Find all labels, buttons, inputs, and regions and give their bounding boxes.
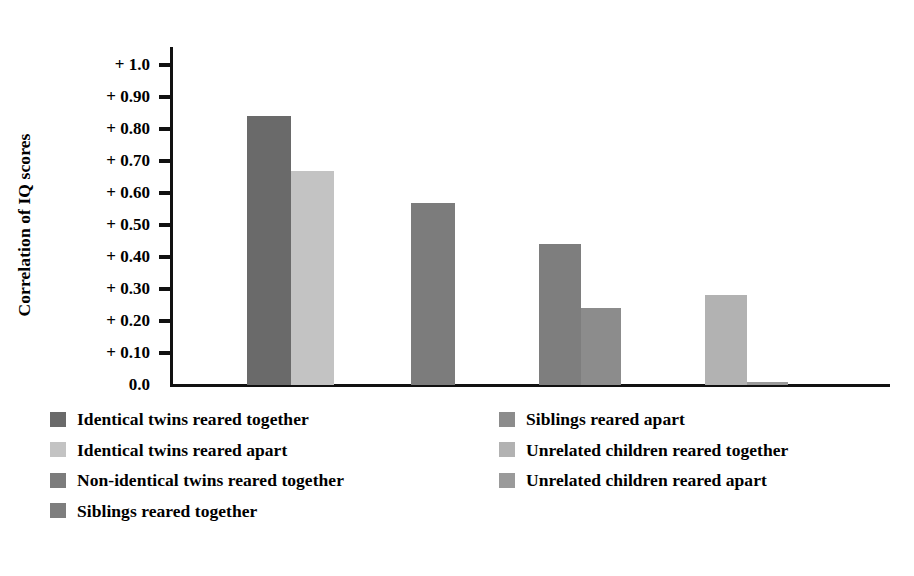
legend-item: Unrelated children reared apart (499, 465, 909, 496)
legend-column-left: Identical twins reared togetherIdentical… (50, 404, 480, 526)
legend-swatch (50, 503, 66, 518)
legend-item: Identical twins reared apart (50, 435, 480, 466)
bar (747, 382, 788, 385)
legend-item: Siblings reared apart (499, 404, 909, 435)
legend-swatch (50, 412, 66, 427)
bar (705, 295, 747, 385)
legend-item: Identical twins reared together (50, 404, 480, 435)
legend-item: Non-identical twins reared together (50, 465, 480, 496)
bar (581, 308, 621, 385)
bar (247, 116, 291, 385)
legend-item-label: Non-identical twins reared together (77, 470, 344, 490)
bar (539, 244, 581, 385)
legend-item: Siblings reared together (50, 496, 480, 527)
legend-item-label: Unrelated children reared apart (526, 470, 767, 490)
legend-item-label: Siblings reared apart (526, 409, 685, 429)
legend-column-right: Siblings reared apartUnrelated children … (499, 404, 909, 496)
legend: Identical twins reared togetherIdentical… (0, 404, 914, 576)
legend-swatch (499, 442, 515, 457)
legend-item: Unrelated children reared together (499, 435, 909, 466)
legend-item-label: Identical twins reared apart (77, 440, 287, 460)
legend-item-label: Identical twins reared together (77, 409, 309, 429)
legend-swatch (499, 412, 515, 427)
iq-correlation-bar-chart: Correlation of IQ scores + 1.0+ 0.90+ 0.… (0, 0, 914, 576)
legend-item-label: Siblings reared together (77, 501, 257, 521)
legend-item-label: Unrelated children reared together (526, 440, 788, 460)
bar-group (0, 0, 914, 385)
legend-swatch (50, 473, 66, 488)
bar (411, 203, 455, 385)
bar (291, 171, 334, 385)
legend-swatch (50, 442, 66, 457)
plot-area: Correlation of IQ scores + 1.0+ 0.90+ 0.… (0, 0, 914, 400)
legend-swatch (499, 473, 515, 488)
